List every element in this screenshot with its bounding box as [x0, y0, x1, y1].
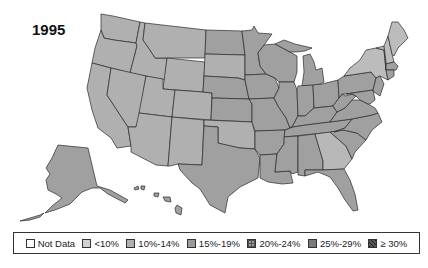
legend-swatch-icon: [82, 239, 91, 248]
hawaii-island-3: [154, 193, 159, 197]
state-mt: [143, 23, 206, 58]
legend-swatch-icon: [308, 239, 317, 248]
state-me: [388, 22, 408, 56]
state-ma: [386, 62, 398, 70]
legend-swatch-icon: [187, 239, 196, 248]
contiguous-states: [87, 14, 408, 213]
legend-swatch-grid-icon: [247, 239, 256, 248]
state-nm: [168, 117, 204, 166]
legend-label: 20%-24%: [259, 238, 300, 249]
alaska: [20, 145, 128, 221]
state-ak: [45, 145, 128, 213]
state-nd: [205, 30, 245, 55]
legend-label: 15%-19%: [199, 238, 240, 249]
legend-label: Not Data: [38, 238, 76, 249]
us-states-map: [0, 0, 428, 230]
legend-label: ≥ 30%: [380, 238, 407, 249]
legend-item-10-14: 10%-14%: [126, 238, 179, 249]
legend-label: 25%-29%: [320, 238, 361, 249]
alaska-islands: [20, 213, 44, 221]
legend-item-15-19: 15%-19%: [187, 238, 240, 249]
state-fl: [305, 169, 358, 211]
state-ks: [211, 98, 252, 122]
state-mi-lower: [302, 54, 324, 86]
legend-item-25-29: 25%-29%: [308, 238, 361, 249]
legend-item-30-plus: ≥ 30%: [368, 238, 407, 249]
state-wy: [163, 58, 205, 92]
legend-label: 10%-14%: [138, 238, 179, 249]
hawaii-island-4: [163, 197, 171, 202]
legend-swatch-icon: [26, 239, 35, 248]
legend-label: <10%: [94, 238, 119, 249]
map-legend: Not Data <10% 10%-14% 15%-19% 20%-24% 25…: [13, 232, 420, 254]
legend-swatch-icon: [126, 239, 135, 248]
legend-item-under-10: <10%: [82, 238, 119, 249]
legend-item-not-data: Not Data: [26, 238, 76, 249]
hawaii-island-2: [141, 186, 145, 190]
hawaii-island-5: [175, 205, 182, 215]
state-co: [172, 90, 212, 120]
legend-swatch-diagonal-icon: [368, 239, 377, 248]
hawaii-island-1: [134, 186, 139, 190]
hawaii: [134, 186, 182, 215]
legend-item-20-24: 20%-24%: [247, 238, 300, 249]
